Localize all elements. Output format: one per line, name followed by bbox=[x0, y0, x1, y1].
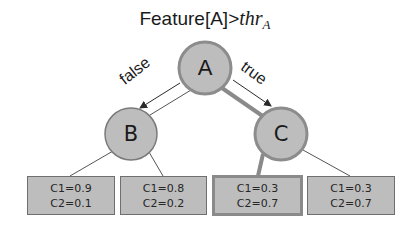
edge-c-leaf4 bbox=[303, 150, 350, 176]
leaf-node-4: C1=0.3 C2=0.7 bbox=[307, 176, 395, 215]
leaf-4-c2: C2=0.7 bbox=[330, 196, 371, 211]
leaf-2-c1: C1=0.8 bbox=[143, 181, 184, 196]
leaf-3-c2: C2=0.7 bbox=[237, 196, 278, 211]
node-a-label: A bbox=[179, 42, 231, 94]
node-b-label: B bbox=[105, 108, 157, 160]
edge-a-c-arrow bbox=[233, 80, 271, 106]
leaf-2-c2: C2=0.2 bbox=[143, 196, 184, 211]
edge-a-b-arrow bbox=[140, 83, 180, 108]
leaf-1-c1: C1=0.9 bbox=[50, 181, 91, 196]
leaf-node-3-selected: C1=0.3 C2=0.7 bbox=[212, 175, 303, 216]
node-c-label: C bbox=[255, 108, 307, 160]
leaf-1-c2: C2=0.1 bbox=[50, 196, 91, 211]
leaf-node-2: C1=0.8 C2=0.2 bbox=[120, 176, 207, 215]
leaf-node-1: C1=0.9 C2=0.1 bbox=[27, 176, 115, 215]
leaf-3-c1: C1=0.3 bbox=[237, 181, 278, 196]
leaf-4-c1: C1=0.3 bbox=[330, 181, 371, 196]
